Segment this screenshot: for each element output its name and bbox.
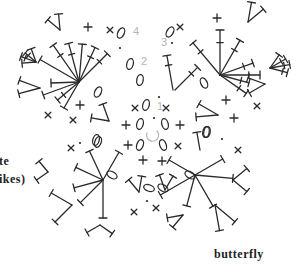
stitch-top-bar <box>247 90 251 97</box>
stitch-top-bar <box>196 113 197 121</box>
single-crochet-icon <box>150 202 161 213</box>
chain-icon <box>136 74 144 86</box>
stitch-stem <box>48 20 60 30</box>
single-crochet-icon <box>129 102 140 113</box>
stitch-stem <box>89 151 103 180</box>
single-crochet-icon <box>76 101 84 109</box>
stitch-stem <box>233 180 247 192</box>
stitch-top-bar <box>34 177 39 184</box>
stitch-stem <box>64 82 79 108</box>
crochet-chart: 1 2 3 4 te ikes) butterfly <box>0 0 305 277</box>
stitch-stem <box>51 82 79 83</box>
single-crochet-icon <box>124 141 132 149</box>
single-crochet-icon <box>158 157 166 165</box>
single-crochet-icon <box>104 24 115 35</box>
single-crochet-icon <box>251 100 262 111</box>
chain-icon <box>160 118 169 130</box>
stitch-stem <box>196 115 218 117</box>
single-crochet-icon <box>65 142 76 153</box>
chain-icon <box>93 86 103 99</box>
slip-stitch-icon <box>119 47 121 49</box>
stitch-mid-bar <box>240 77 242 83</box>
single-crochet-icon <box>230 114 238 122</box>
stitch-top-bar <box>55 14 63 15</box>
stitch-top-bar <box>38 56 42 63</box>
single-crochet-icon <box>213 14 221 22</box>
stitch-top-bar <box>138 176 146 177</box>
stitch-stem <box>58 82 79 100</box>
stitch-top-bar <box>193 132 201 133</box>
stitch-top-bar <box>233 174 234 182</box>
stitch-stem <box>59 14 60 30</box>
stitch-stem <box>76 167 103 180</box>
stitch-stem <box>55 205 72 222</box>
stitch-stem <box>197 132 200 150</box>
stitch-top-bar <box>110 230 115 237</box>
stitch-stem <box>103 104 109 121</box>
stitch-top-bar <box>248 2 256 3</box>
round-label-1: 1 <box>157 100 163 112</box>
stitch-top-bar <box>167 157 171 164</box>
stitch-stem <box>248 78 265 84</box>
single-crochet-icon <box>176 121 184 129</box>
stitch-top-bar <box>22 59 23 67</box>
magic-ring-icon <box>147 131 159 141</box>
stitch-stem <box>195 159 223 175</box>
stitch-stem <box>175 67 198 90</box>
slip-stitch-icon <box>153 117 155 119</box>
stitch-stem <box>129 180 139 192</box>
stitch-stem <box>249 84 265 93</box>
chain-icon <box>106 169 119 180</box>
slip-stitch-icon <box>79 142 81 144</box>
round-label-2: 2 <box>141 55 147 67</box>
stitch-stem <box>193 43 220 75</box>
stitch-stem <box>22 62 36 63</box>
butterfly-diagram <box>0 0 305 277</box>
stitch-top-bar <box>284 56 288 63</box>
slip-stitch-icon <box>171 42 173 44</box>
caption: butterfly <box>214 247 264 262</box>
slip-stitch-icon <box>146 200 148 202</box>
stitch-stem <box>233 168 247 180</box>
stitch-top-bar <box>61 106 68 110</box>
stitch-stem <box>37 172 48 180</box>
chain-icon <box>143 183 156 193</box>
stitch-top-bar <box>289 61 290 69</box>
round-label-4: 4 <box>133 25 139 37</box>
single-crochet-icon <box>84 23 92 31</box>
stitch-top-bar <box>50 43 57 48</box>
chain-icon <box>158 139 168 152</box>
stitch-stem <box>169 160 195 175</box>
single-crochet-icon <box>172 140 183 151</box>
stitch-stem <box>51 193 72 205</box>
stitch-mid-bar <box>284 62 285 68</box>
chain-icon <box>199 77 209 90</box>
single-crochet-icon <box>42 109 53 120</box>
stitch-stem <box>167 56 173 90</box>
single-crochet-icon <box>232 144 243 155</box>
stitch-top-bar <box>85 229 89 236</box>
chain-icon <box>135 139 145 152</box>
slip-stitch-icon <box>221 138 223 140</box>
stitch-top-bar <box>158 192 162 199</box>
single-crochet-icon <box>174 21 185 32</box>
round-label-3: 3 <box>161 36 167 48</box>
stitch-top-bar <box>78 44 86 45</box>
stitch-top-bar <box>116 150 123 154</box>
stitch-stem <box>195 175 213 206</box>
stitch-stem <box>195 175 233 178</box>
stitch-mid-bar <box>282 68 284 74</box>
single-crochet-icon <box>128 206 139 217</box>
single-crochet-icon <box>222 96 230 104</box>
single-crochet-icon <box>139 156 147 164</box>
stitch-mid-bar <box>237 86 241 91</box>
stitch-top-bar <box>49 190 53 197</box>
chain-icon <box>125 58 134 70</box>
stitch-stem <box>220 75 249 83</box>
stitch-stem <box>40 60 79 83</box>
stitch-top-bar <box>276 53 283 58</box>
chain-icon <box>116 27 126 40</box>
chain-icon <box>93 136 103 149</box>
stitch-stem <box>87 225 100 233</box>
stitch-top-bar <box>216 230 224 231</box>
